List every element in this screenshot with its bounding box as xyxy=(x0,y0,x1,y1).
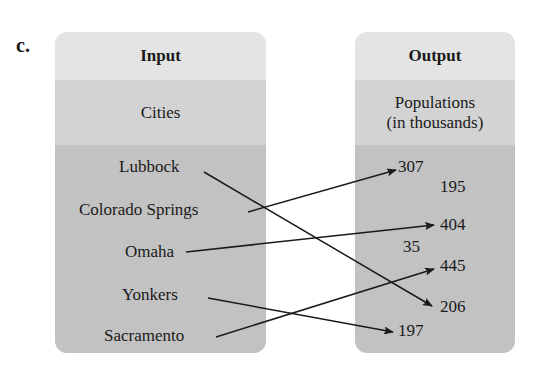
arrow-yonkers-197 xyxy=(208,298,393,332)
mapping-arrows xyxy=(0,0,533,382)
arrow-omaha-404 xyxy=(186,225,434,252)
arrow-colorado-springs-307 xyxy=(248,170,396,212)
arrow-sacramento-445 xyxy=(216,269,434,337)
